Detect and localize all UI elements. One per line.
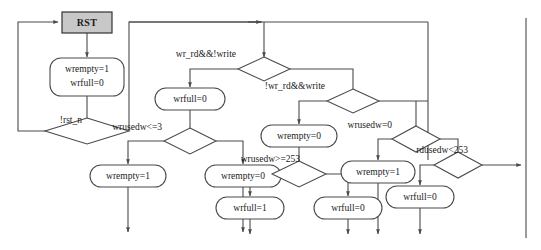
decision-not-wr-rd-write-label: !wr_rd&&write [265,81,325,91]
node-wrfull0-b[interactable]: wrfull=0 [314,197,382,219]
edge-rdusedw-true-to-wrfull0c [420,165,434,185]
edge-notwrrd-true-to-wrempty0b [299,101,327,124]
decision-wrusedw-ge-253[interactable] [272,161,326,187]
edge-wrrd-true-to-wrfull0a [190,69,238,87]
node-init[interactable]: wrempty=1 wrfull=0 [50,58,124,96]
flowchart-canvas: RST wrempty=1 wrfull=0 !rst_n wr_rd&&!wr… [0,0,541,250]
decision-wrusedw-le-3[interactable] [164,128,216,154]
node-wrfull0-c-label: wrfull=0 [403,192,437,202]
edge-wrusedw3-false-to-wrempty0a [216,141,243,164]
decision-wrusedw-ge-253-label: wrusedw>=253 [241,154,301,164]
node-wrfull1[interactable]: wrfull=1 [216,197,284,219]
node-wrempty1-b[interactable]: wrempty=1 [341,161,415,183]
flowchart-svg: RST wrempty=1 wrfull=0 !rst_n wr_rd&&!wr… [0,0,541,250]
edge-wrusedw3-true-to-wrempty1a [128,141,164,164]
node-wrempty0-a[interactable]: wrempty=0 [205,165,281,187]
node-wrfull0-a[interactable]: wrfull=0 [155,88,225,110]
decision-wr-rd-not-write[interactable] [238,57,290,81]
node-wrfull1-label: wrfull=1 [233,203,267,213]
node-wrempty0-b[interactable]: wrempty=0 [261,125,337,147]
node-wrempty1-b-label: wrempty=1 [356,167,400,177]
node-init-label-line1: wrempty=1 [65,64,109,74]
decision-wr-rd-not-write-label: wr_rd&&!write [176,49,236,59]
decision-wrusedw-le-3-label: wrusedw<=3 [112,122,162,132]
node-wrempty1-a-label: wrempty=1 [106,171,150,181]
node-wrempty0-b-label: wrempty=0 [277,131,321,141]
node-wrfull0-c[interactable]: wrfull=0 [386,186,454,208]
decision-rdusedw-lt-253-label: rdusedw<253 [416,145,468,155]
node-wrempty1-a[interactable]: wrempty=1 [90,165,166,187]
decision-wrusedw-eq-0-label: wrusedw=0 [348,120,393,130]
edge-rstn-false-to-toprail [129,22,262,131]
decision-not-wr-rd-write[interactable] [327,89,379,113]
edge-wrusedw0-true-to-wrempty1b [378,139,392,160]
node-wrempty0-a-label: wrempty=0 [221,171,265,181]
node-wrfull0-a-label: wrfull=0 [173,94,207,104]
decision-rst-n-label: !rst_n [60,115,82,125]
node-start-rst-label: RST [77,17,97,28]
node-init-label-line2: wrfull=0 [70,78,104,88]
node-wrfull0-b-label: wrfull=0 [331,203,365,213]
node-start-rst[interactable]: RST [62,12,112,33]
decision-rdusedw-lt-253[interactable] [434,152,482,178]
